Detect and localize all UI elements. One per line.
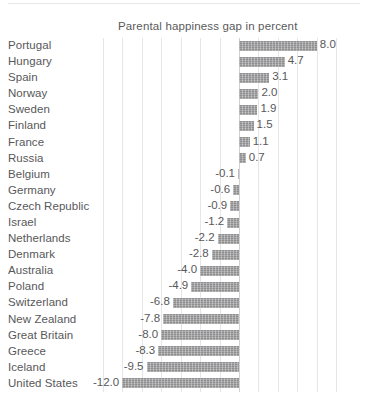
category-label: Hungary — [8, 54, 88, 71]
bar — [161, 330, 239, 340]
bar-row: -2.8 — [93, 247, 346, 264]
bar — [238, 169, 239, 179]
category-label: New Zealand — [8, 312, 88, 329]
bar-row: 2.0 — [93, 86, 346, 103]
bar-value-label: -12.0 — [93, 375, 119, 390]
category-label: Norway — [8, 86, 88, 103]
bar — [239, 73, 269, 83]
category-label: Australia — [8, 263, 88, 280]
bar-value-label: -8.0 — [138, 327, 158, 342]
bar-value-label: -4.0 — [177, 262, 197, 277]
bar — [191, 282, 239, 292]
bar-value-label: 3.1 — [272, 69, 288, 84]
bar-row: -2.2 — [93, 231, 346, 248]
bar-row: 1.1 — [93, 135, 346, 152]
bar-value-label: -2.8 — [189, 246, 209, 261]
bar — [122, 378, 239, 388]
category-axis-labels: PortugalHungarySpainNorwaySwedenFinlandF… — [0, 38, 88, 392]
bar — [212, 250, 239, 260]
bar — [218, 234, 239, 244]
bar — [233, 185, 239, 195]
bar-value-label: 4.7 — [288, 53, 304, 68]
category-label: Switzerland — [8, 295, 88, 312]
category-label: Sweden — [8, 102, 88, 119]
bar-value-label: -0.6 — [210, 182, 230, 197]
category-label: Denmark — [8, 247, 88, 264]
bar — [158, 346, 239, 356]
bar — [239, 89, 258, 99]
category-label: Israel — [8, 215, 88, 232]
bar-value-label: 0.7 — [249, 150, 265, 165]
bar-value-label: 1.9 — [260, 101, 276, 116]
category-label: Spain — [8, 70, 88, 87]
category-label: Russia — [8, 151, 88, 168]
category-label: United States — [8, 376, 88, 393]
bar-row: 1.9 — [93, 102, 346, 119]
bar-row: -7.8 — [93, 312, 346, 329]
category-label: Belgium — [8, 167, 88, 184]
category-label: Netherlands — [8, 231, 88, 248]
bar — [239, 41, 317, 51]
bar-row: 4.7 — [93, 54, 346, 71]
bar — [239, 57, 285, 67]
bar — [239, 153, 246, 163]
chart-figure: Parental happiness gap in percent Portug… — [0, 0, 366, 413]
bar-value-label: -0.1 — [215, 166, 235, 181]
category-label: Portugal — [8, 38, 88, 55]
bar-value-label: -4.9 — [168, 278, 188, 293]
bar-value-label: 8.0 — [320, 37, 336, 52]
bar — [239, 137, 250, 147]
category-label: France — [8, 135, 88, 152]
bar — [239, 121, 254, 131]
category-label: Czech Republic — [8, 199, 88, 216]
bar-value-label: -0.9 — [207, 198, 227, 213]
bar-value-label: 2.0 — [261, 85, 277, 100]
bar-value-label: -1.2 — [204, 214, 224, 229]
bar — [173, 298, 239, 308]
bar — [230, 201, 239, 211]
category-label: Great Britain — [8, 328, 88, 345]
plot-area: 8.04.73.12.01.91.51.10.7-0.1-0.6-0.9-1.2… — [93, 38, 346, 392]
bar-row: 1.5 — [93, 118, 346, 135]
bar-row: -8.0 — [93, 328, 346, 345]
bar-value-label: -6.8 — [150, 294, 170, 309]
chart-title: Parental happiness gap in percent — [118, 20, 358, 32]
bar-series: 8.04.73.12.01.91.51.10.7-0.1-0.6-0.9-1.2… — [93, 38, 346, 392]
category-label: Finland — [8, 118, 88, 135]
bar-row: 3.1 — [93, 70, 346, 87]
bar-row: -12.0 — [93, 376, 346, 393]
category-label: Poland — [8, 279, 88, 296]
bar-row: 8.0 — [93, 38, 346, 55]
bar-value-label: -2.2 — [195, 230, 215, 245]
category-label: Iceland — [8, 360, 88, 377]
bar — [163, 314, 239, 324]
bar — [239, 105, 257, 115]
bar-row: -6.8 — [93, 295, 346, 312]
bar-row: -9.5 — [93, 360, 346, 377]
bar-row: -4.9 — [93, 279, 346, 296]
bar-value-label: -7.8 — [140, 311, 160, 326]
category-label: Germany — [8, 183, 88, 200]
bar-row: -1.2 — [93, 215, 346, 232]
bar-value-label: -8.3 — [135, 343, 155, 358]
bar — [200, 266, 239, 276]
bar-value-label: -9.5 — [124, 359, 144, 374]
bar — [147, 362, 239, 372]
bar-row: -4.0 — [93, 263, 346, 280]
category-label: Greece — [8, 344, 88, 361]
bar — [227, 218, 239, 228]
bar-value-label: 1.1 — [253, 134, 269, 149]
top-divider — [8, 3, 360, 4]
bar-value-label: 1.5 — [257, 117, 273, 132]
